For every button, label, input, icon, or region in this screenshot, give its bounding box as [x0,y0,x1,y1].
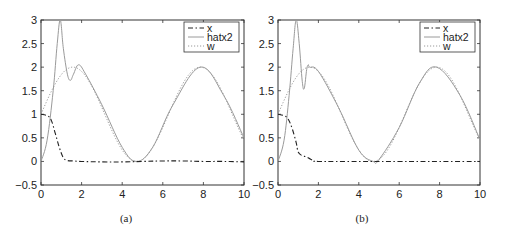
series-x-line [41,114,244,162]
figure: 0246810−0.500.511.522.53xhatx2w(a) 02468… [0,0,506,233]
y-tick-label: 3 [268,14,274,26]
x-tick-label: 4 [356,188,362,200]
x-tick-label: 8 [437,188,443,200]
panel-caption: (a) [120,212,133,225]
x-tick-label: 10 [474,188,486,200]
panel-caption: (b) [356,212,369,225]
y-tick-label: 1.5 [22,85,37,97]
x-tick-label: 2 [315,188,321,200]
y-tick-label: 0 [268,155,274,167]
y-tick-label: 0.5 [259,132,274,144]
legend-label-w: w [442,40,451,52]
legend-label-w: w [206,40,215,52]
y-tick-label: 0.5 [22,132,37,144]
x-tick-label: 6 [160,188,166,200]
x-tick-label: 0 [38,188,44,200]
x-tick-label: 8 [200,188,206,200]
y-tick-label: −0.5 [15,179,37,191]
x-tick-label: 6 [396,188,402,200]
y-tick-label: 2 [31,61,37,73]
y-tick-label: 2 [268,61,274,73]
y-tick-label: 1 [268,108,274,120]
panel-a: 0246810−0.500.511.522.53xhatx2w(a) [15,14,250,225]
y-tick-label: −0.5 [252,179,274,191]
series-w-line [41,67,244,161]
legend: xhatx2w [420,22,475,53]
y-tick-label: 0 [31,155,37,167]
panel-b: 0246810−0.500.511.522.53xhatx2w(b) [252,14,486,225]
y-tick-label: 1 [31,108,37,120]
y-tick-label: 3 [31,14,37,26]
x-tick-label: 4 [119,188,125,200]
series-x-line [278,114,480,161]
legend: xhatx2w [184,22,239,53]
y-tick-label: 1.5 [259,85,274,97]
x-tick-label: 10 [238,188,250,200]
x-tick-label: 0 [275,188,281,200]
y-tick-label: 2.5 [22,38,37,50]
series-w-line [278,67,480,161]
y-tick-label: 2.5 [259,38,274,50]
x-tick-label: 2 [79,188,85,200]
